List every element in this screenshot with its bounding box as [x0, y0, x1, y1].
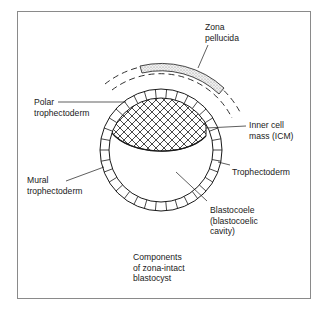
- label-inner-cell-mass: Inner cell mass (ICM): [249, 120, 293, 141]
- label-blastocoele: Blastocoele (blastocoelic cavity): [210, 205, 258, 237]
- label-zona-pellucida: Zona pellucida: [205, 22, 239, 43]
- label-polar-trophectoderm: Polar trophectoderm: [34, 97, 89, 118]
- label-mural-trophectoderm: Mural trophectoderm: [27, 175, 82, 196]
- diagram-caption: Components of zona-intact blastocyst: [133, 252, 185, 284]
- label-trophectoderm: Trophectoderm: [232, 167, 290, 178]
- leader-zona: [198, 45, 208, 68]
